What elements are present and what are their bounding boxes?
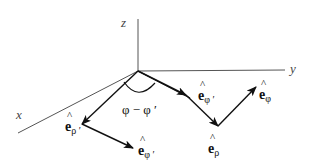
y-axis <box>138 70 285 71</box>
label-e-phi-prime-lower: ^ eφ ′ <box>138 133 155 160</box>
e-phi-arrow <box>218 87 256 126</box>
vector-labels: ^ eρ ′ ^ eφ ′ ^ eφ ′ ^ eρ ^ eφ <box>65 77 271 160</box>
svg-text:eρ ′: eρ ′ <box>65 119 81 136</box>
angle-label: φ − φ ′ <box>122 102 157 117</box>
vectors <box>82 71 256 148</box>
svg-text:eφ ′: eφ ′ <box>198 88 215 105</box>
y-axis-label: y <box>288 61 296 76</box>
angle-arc <box>124 82 155 92</box>
unit-vector-diagram: z y x φ − φ ′ ^ eρ ′ ^ eφ ′ ^ eφ ′ <box>0 0 314 167</box>
svg-text:eρ: eρ <box>208 141 219 158</box>
label-e-phi-prime-origin: ^ eφ ′ <box>198 78 215 105</box>
svg-text:eφ ′: eφ ′ <box>138 143 155 160</box>
svg-text:eφ: eφ <box>259 87 271 104</box>
label-e-phi: ^ eφ <box>259 77 271 104</box>
x-axis <box>18 71 138 133</box>
label-e-rho-prime: ^ eρ ′ <box>65 109 81 136</box>
label-e-rho: ^ eρ <box>208 131 219 158</box>
e-rho-shaft <box>138 71 190 98</box>
x-axis-label: x <box>15 107 22 122</box>
e-phi-prime-lower-arrow <box>82 124 133 148</box>
z-axis-label: z <box>120 15 126 30</box>
